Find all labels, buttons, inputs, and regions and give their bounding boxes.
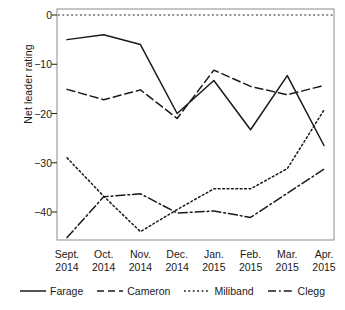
x-tick-year: 2015 — [276, 261, 299, 274]
x-tick-month: Oct. — [94, 248, 113, 260]
x-tick-month: Sept. — [55, 248, 80, 260]
x-tick-label: Nov.2014 — [129, 248, 152, 273]
legend-line-swatch — [20, 287, 46, 295]
x-tick-month: Feb. — [240, 248, 261, 260]
x-tick-label: Oct.2014 — [92, 248, 115, 273]
x-tick-label: Jan.2015 — [202, 248, 225, 273]
x-tick-year: 2014 — [165, 261, 188, 274]
y-tick-label: −10 — [34, 59, 52, 69]
legend-label: Cameron — [127, 285, 170, 297]
y-axis-tick-labels: 0−10−20−30−40 — [24, 0, 52, 245]
legend-line-swatch — [97, 287, 123, 295]
legend-item-miliband[interactable]: Miliband — [184, 285, 253, 297]
legend-label: Miliband — [214, 285, 253, 297]
y-tick-label: −30 — [34, 158, 52, 168]
net-leader-rating-chart: Net leader rating 0−10−20−30−40 Sept.201… — [0, 0, 345, 310]
legend-item-farage[interactable]: Farage — [20, 285, 83, 297]
legend-item-cameron[interactable]: Cameron — [97, 285, 170, 297]
x-tick-month: Dec. — [166, 248, 188, 260]
x-tick-year: 2014 — [92, 261, 115, 274]
legend-label: Clegg — [298, 285, 325, 297]
chart-legend: FarageCameronMilibandClegg — [0, 285, 345, 297]
legend-label: Farage — [50, 285, 83, 297]
x-tick-year: 2014 — [55, 261, 80, 274]
x-tick-label: Sept.2014 — [55, 248, 80, 273]
y-tick-label: 0 — [46, 10, 52, 20]
y-tick-label: −20 — [34, 109, 52, 119]
x-tick-label: Dec.2014 — [165, 248, 188, 273]
x-tick-month: Jan. — [204, 248, 224, 260]
x-tick-label: Feb.2015 — [239, 248, 262, 273]
y-tick-label: −40 — [34, 207, 52, 217]
legend-line-swatch — [184, 287, 210, 295]
x-tick-month: Nov. — [130, 248, 151, 260]
x-tick-year: 2014 — [129, 261, 152, 274]
x-tick-label: Apr.2015 — [312, 248, 335, 273]
x-tick-year: 2015 — [312, 261, 335, 274]
plot-frame — [57, 9, 334, 240]
x-tick-label: Mar.2015 — [276, 248, 299, 273]
x-tick-year: 2015 — [239, 261, 262, 274]
x-axis-tick-labels: Sept.2014Oct.2014Nov.2014Dec.2014Jan.201… — [57, 244, 334, 284]
x-tick-month: Mar. — [277, 248, 297, 260]
x-tick-month: Apr. — [315, 248, 334, 260]
legend-line-swatch — [268, 287, 294, 295]
legend-item-clegg[interactable]: Clegg — [268, 285, 325, 297]
x-tick-year: 2015 — [202, 261, 225, 274]
